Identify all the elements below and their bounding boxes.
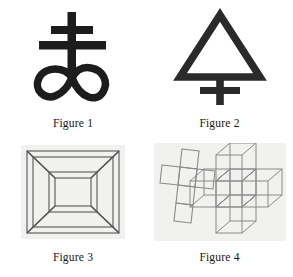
infinity-lemniscate [37,68,105,98]
figure-3-caption: Figure 3 [53,252,93,264]
figure-panel-4: Figure 4 [146,138,293,277]
figure-grid: Figure 1 Figure 2 [0,0,293,277]
figure-panel-3: Figure 3 [0,138,146,277]
leviathan-cross-symbol [25,8,121,108]
leviathan-cross-strokes [39,12,106,74]
cross-net-and-cube-cross [154,143,286,241]
figure-4-caption: Figure 4 [199,252,239,264]
lemniscate-path [37,68,105,98]
cross-lower-bar [39,41,106,50]
figure-3-background [21,145,125,239]
figure-4-artwork [154,143,286,241]
figure-3-artwork [21,145,125,239]
figure-panel-1: Figure 1 [0,0,146,138]
alchemical-sulfur-symbol [172,8,268,108]
wireframe-nested-frame [21,145,125,239]
figure-2-artwork [172,8,268,108]
sulfur-cross-horizontal [200,87,240,94]
figure-1-artwork [25,8,121,108]
figure-1-caption: Figure 1 [53,118,93,130]
figure-2-caption: Figure 2 [199,118,239,130]
sulfur-triangle [180,15,260,77]
figure-4-background [154,143,286,241]
figure-panel-2: Figure 2 [146,0,293,138]
cross-upper-bar [51,26,93,34]
